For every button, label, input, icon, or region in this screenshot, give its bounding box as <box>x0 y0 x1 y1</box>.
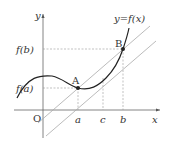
point-b-label: B <box>115 38 122 49</box>
y-axis-label: y <box>34 10 41 21</box>
secant-line-ab <box>38 26 150 123</box>
point-a <box>76 86 80 90</box>
fa-label: f(a) <box>15 83 34 94</box>
mean-value-theorem-diagram: y=f(x) y x O A B f(a) f(b) a c b <box>0 0 172 147</box>
origin-label: O <box>33 113 41 124</box>
curve-label: y=f(x) <box>113 13 145 24</box>
x-axis-label: x <box>152 114 158 125</box>
point-a-label: A <box>71 75 80 86</box>
function-curve <box>17 28 129 98</box>
c-tick-label: c <box>100 114 106 125</box>
a-tick-label: a <box>75 114 81 125</box>
fb-label: f(b) <box>15 44 34 55</box>
b-tick-label: b <box>120 114 126 125</box>
